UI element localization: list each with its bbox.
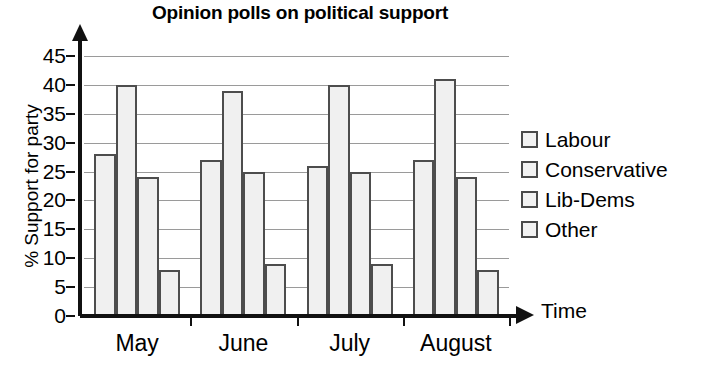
bar-chart-figure: Opinion polls on political support % Sup…	[0, 0, 701, 375]
bar	[307, 166, 329, 316]
bar	[159, 270, 181, 316]
y-tick-mark	[66, 315, 75, 317]
legend-item[interactable]: Other	[521, 214, 696, 244]
bar	[413, 160, 435, 316]
bar	[200, 160, 222, 316]
bar	[456, 177, 478, 316]
y-tick-mark	[66, 142, 75, 144]
bar	[94, 154, 116, 316]
y-tick-label: 10	[20, 247, 66, 268]
y-axis-tick-labels: 454035302520151050	[20, 56, 66, 316]
y-tick-mark	[66, 199, 75, 201]
y-tick-label: 20	[20, 189, 66, 210]
y-axis-arrow-icon	[72, 24, 88, 41]
y-tick-mark	[66, 113, 75, 115]
y-axis-line	[78, 38, 82, 316]
y-tick-mark	[66, 257, 75, 259]
legend-item-label: Labour	[545, 128, 610, 151]
x-axis-title: Time	[541, 300, 587, 321]
y-tick-mark	[66, 84, 75, 86]
y-tick-label: 30	[20, 132, 66, 153]
legend-item-label: Other	[545, 218, 598, 241]
bar	[243, 172, 265, 316]
legend-swatch-icon	[521, 131, 538, 148]
x-tick-label: June	[218, 330, 268, 356]
x-tick-mark	[509, 316, 511, 326]
bar	[371, 264, 393, 316]
chart-title: Opinion polls on political support	[0, 2, 600, 24]
bar	[116, 85, 138, 316]
legend-swatch-icon	[521, 161, 538, 178]
y-tick-mark	[66, 286, 75, 288]
bar	[477, 270, 499, 316]
x-tick-mark	[403, 316, 405, 326]
gridline	[84, 56, 509, 57]
x-tick-label: July	[329, 330, 370, 356]
y-tick-label: 45	[20, 45, 66, 66]
x-tick-mark	[297, 316, 299, 326]
x-tick-mark	[190, 316, 192, 326]
chart-legend: LabourConservativeLib-DemsOther	[521, 124, 696, 244]
bar	[137, 177, 159, 316]
y-tick-mark	[66, 55, 75, 57]
legend-item[interactable]: Labour	[521, 124, 696, 154]
legend-item[interactable]: Conservative	[521, 154, 696, 184]
y-tick-label: 35	[20, 103, 66, 124]
y-tick-label: 5	[20, 276, 66, 297]
x-tick-label: August	[420, 330, 492, 356]
bar	[222, 91, 244, 316]
y-tick-label: 0	[20, 305, 66, 326]
legend-item-label: Conservative	[545, 158, 668, 181]
legend-swatch-icon	[521, 221, 538, 238]
x-tick-label: May	[115, 330, 158, 356]
legend-item[interactable]: Lib-Dems	[521, 184, 696, 214]
legend-swatch-icon	[521, 191, 538, 208]
y-tick-label: 15	[20, 218, 66, 239]
plot-area	[84, 56, 509, 316]
bar	[265, 264, 287, 316]
x-axis-line	[80, 314, 518, 318]
y-tick-label: 40	[20, 74, 66, 95]
bar	[434, 79, 456, 316]
bar	[328, 85, 350, 316]
y-tick-mark	[66, 228, 75, 230]
y-tick-mark	[66, 171, 75, 173]
y-tick-label: 25	[20, 161, 66, 182]
x-axis-arrow-icon	[516, 306, 534, 324]
bar	[350, 172, 372, 316]
legend-item-label: Lib-Dems	[545, 188, 635, 211]
